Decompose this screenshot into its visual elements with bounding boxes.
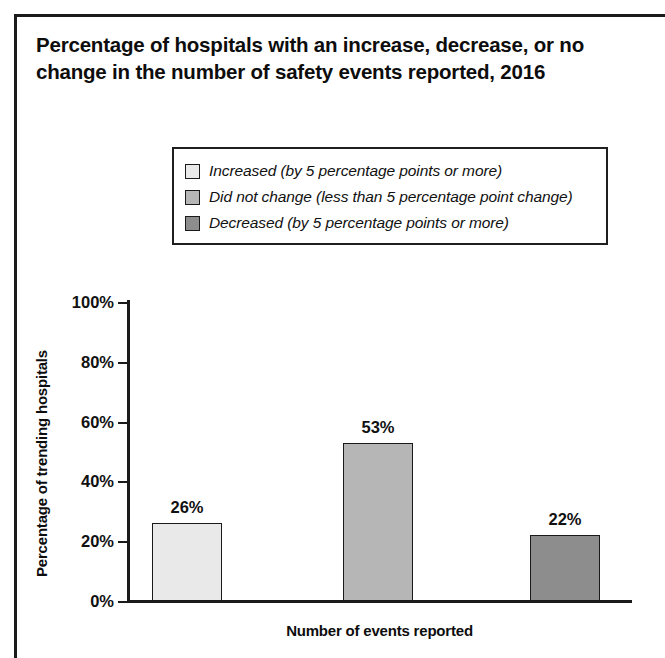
legend-item-increased: Increased (by 5 percentage points or mor… xyxy=(185,158,606,184)
plot-area: 100%80%60%40%20%0% 26%53%22% xyxy=(127,302,632,601)
legend-label-increased: Increased (by 5 percentage points or mor… xyxy=(209,162,502,180)
chart-legend: Increased (by 5 percentage points or mor… xyxy=(172,147,608,245)
bar: 26% xyxy=(152,523,222,601)
legend-swatch-decreased-icon xyxy=(185,216,200,231)
y-axis-tick-mark xyxy=(118,302,127,304)
bar-value-label: 26% xyxy=(170,498,203,517)
legend-swatch-increased-icon xyxy=(185,164,200,179)
y-axis-tick-mark xyxy=(118,601,127,603)
y-axis-tick-mark xyxy=(118,362,127,364)
y-axis-tick-label: 0% xyxy=(90,592,114,611)
bar-value-label: 53% xyxy=(361,418,394,437)
legend-label-did-not-change: Did not change (less than 5 percentage p… xyxy=(209,188,573,206)
y-axis-tick-mark xyxy=(118,541,127,543)
y-axis-tick-label: 40% xyxy=(81,472,114,491)
y-axis-tick-label: 20% xyxy=(81,532,114,551)
legend-item-did-not-change: Did not change (less than 5 percentage p… xyxy=(185,184,606,210)
legend-swatch-did-not-change-icon xyxy=(185,190,200,205)
legend-item-decreased: Decreased (by 5 percentage points or mor… xyxy=(185,210,606,236)
y-axis-title-label: Percentage of trending hospitals xyxy=(33,350,50,577)
y-axis-tick-mark xyxy=(118,422,127,424)
bar: 22% xyxy=(530,535,600,601)
y-axis-tick-label: 80% xyxy=(81,352,114,371)
y-axis-title: Percentage of trending hospitals xyxy=(31,338,51,588)
chart-title: Percentage of hospitals with an increase… xyxy=(36,31,596,86)
bar-value-label: 22% xyxy=(548,510,581,529)
y-axis-tick-mark xyxy=(118,481,127,483)
bar: 53% xyxy=(343,443,413,601)
x-axis-title: Number of events reported xyxy=(127,622,632,639)
y-axis-tick-label: 100% xyxy=(72,293,114,312)
y-axis-tick-label: 60% xyxy=(81,412,114,431)
legend-label-decreased: Decreased (by 5 percentage points or mor… xyxy=(209,214,509,232)
